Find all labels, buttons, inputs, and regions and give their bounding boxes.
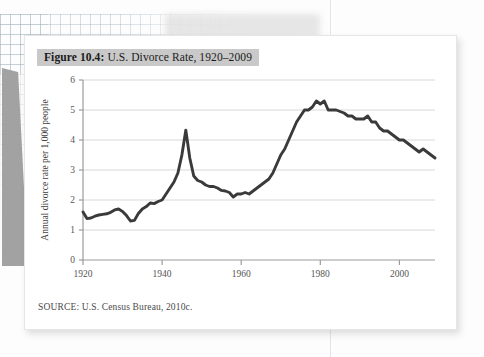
x-tick-label-2000: 2000 [390, 269, 409, 279]
x-tick-label-1960: 1960 [232, 269, 251, 279]
y-tick-label-5: 5 [70, 105, 75, 115]
divorce-rate-series-line [83, 101, 435, 221]
y-tick-label-0: 0 [70, 255, 75, 265]
gridlines-group [83, 80, 435, 260]
y-tick-label-4: 4 [70, 135, 75, 145]
y-axis-ticks-group: 0123456 [70, 75, 83, 265]
x-axis-ticks-group: 19201940196019802000 [74, 260, 410, 279]
figure-number: Figure 10.4: [44, 51, 104, 63]
chart-plot-area: 0123456 19201940196019802000 Annual divo… [37, 72, 447, 294]
divorce-rate-line-chart: 0123456 19201940196019802000 Annual divo… [37, 72, 447, 294]
x-tick-label-1920: 1920 [74, 269, 93, 279]
y-tick-label-2: 2 [70, 195, 75, 205]
x-tick-label-1980: 1980 [311, 269, 330, 279]
y-tick-label-3: 3 [70, 165, 75, 175]
figure-caption: Figure 10.4: U.S. Divorce Rate, 1920–200… [37, 49, 259, 66]
x-tick-label-1940: 1940 [153, 269, 172, 279]
y-tick-label-1: 1 [70, 225, 75, 235]
figure-source-note: SOURCE: U.S. Census Bureau, 2010c. [38, 302, 192, 312]
figure-card: Figure 10.4: U.S. Divorce Rate, 1920–200… [24, 35, 457, 330]
figure-caption-text: U.S. Divorce Rate, 1920–2009 [104, 51, 252, 63]
y-axis-label: Annual divorce rate per 1,000 people [40, 99, 50, 240]
y-tick-label-6: 6 [70, 75, 75, 85]
